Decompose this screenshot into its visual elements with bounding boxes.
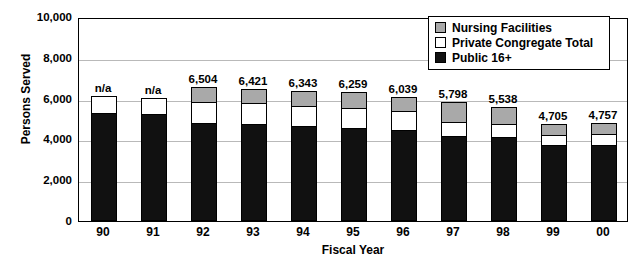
legend-item[interactable]: Public 16+ [435, 50, 604, 65]
bar-segment[interactable] [191, 102, 217, 124]
bar-value-label: n/a [123, 85, 183, 97]
bar-segment[interactable] [141, 98, 167, 115]
bar-segment[interactable] [441, 102, 467, 123]
x-tick-label: 94 [278, 226, 328, 238]
bar-segment[interactable] [141, 114, 167, 221]
bar-group[interactable] [341, 93, 367, 221]
bar-segment[interactable] [591, 145, 617, 221]
legend-swatch-icon [435, 52, 446, 63]
x-axis-title: Fiscal Year [78, 244, 628, 256]
clipped-chart-title [78, 0, 628, 1]
y-tick-label: 0 [12, 216, 72, 228]
bar-group[interactable] [591, 124, 617, 221]
legend-item[interactable]: Nursing Facilities [435, 20, 604, 35]
y-tick-label: 6,000 [12, 94, 72, 106]
bar-segment[interactable] [391, 130, 417, 221]
legend-swatch-icon [435, 22, 446, 33]
legend-label: Private Congregate Total [452, 37, 593, 49]
bar-segment[interactable] [341, 92, 367, 108]
x-tick-label: 91 [128, 226, 178, 238]
bar-segment[interactable] [291, 91, 317, 107]
bar-group[interactable] [191, 88, 217, 221]
x-tick-label: 93 [228, 226, 278, 238]
y-tick-label: 10,000 [12, 12, 72, 24]
bar-group[interactable] [141, 99, 167, 221]
x-tick-label: 96 [378, 226, 428, 238]
x-tick-label: 98 [478, 226, 528, 238]
x-tick-label: 90 [78, 226, 128, 238]
x-axis-tick-labels: 9091929394959697989900 [78, 226, 628, 244]
bar-value-label: 5,538 [473, 94, 533, 106]
bar-segment[interactable] [591, 134, 617, 146]
legend-swatch-icon [435, 37, 446, 48]
stacked-bar-chart: Persons Served 10,0008,0006,0004,0002,00… [0, 0, 636, 261]
legend-label: Nursing Facilities [452, 22, 552, 34]
bar-segment[interactable] [441, 122, 467, 137]
y-tick-label: 8,000 [12, 53, 72, 65]
x-tick-label: 92 [178, 226, 228, 238]
legend-item[interactable]: Private Congregate Total [435, 35, 604, 50]
y-axis-tick-labels: 10,0008,0006,0004,0002,0000 [12, 0, 72, 261]
bar-segment[interactable] [591, 123, 617, 135]
bar-segment[interactable] [541, 145, 567, 221]
bar-group[interactable] [491, 108, 517, 221]
bar-segment[interactable] [541, 124, 567, 136]
bar-segment[interactable] [341, 108, 367, 130]
y-tick-label: 2,000 [12, 175, 72, 187]
bar-segment[interactable] [541, 135, 567, 146]
y-tick-label: 4,000 [12, 134, 72, 146]
bar-segment[interactable] [191, 87, 217, 103]
x-tick-label: 00 [578, 226, 628, 238]
bar-segment[interactable] [241, 124, 267, 221]
bar-segment[interactable] [291, 106, 317, 128]
bar-group[interactable] [391, 98, 417, 221]
bar-segment[interactable] [291, 126, 317, 221]
chart-legend: Nursing FacilitiesPrivate Congregate Tot… [428, 16, 610, 70]
bar-segment[interactable] [241, 89, 267, 104]
x-tick-label: 99 [528, 226, 578, 238]
bar-segment[interactable] [491, 137, 517, 221]
bar-segment[interactable] [391, 111, 417, 131]
bar-group[interactable] [241, 90, 267, 221]
bar-segment[interactable] [341, 128, 367, 221]
legend-label: Public 16+ [452, 52, 512, 64]
bar-group[interactable] [441, 103, 467, 221]
bar-segment[interactable] [391, 97, 417, 112]
bar-segment[interactable] [441, 136, 467, 221]
bar-group[interactable] [91, 97, 117, 221]
x-tick-label: 95 [328, 226, 378, 238]
bar-segment[interactable] [491, 107, 517, 125]
bar-value-label: 4,757 [573, 110, 633, 122]
bar-segment[interactable] [241, 103, 267, 124]
bar-group[interactable] [541, 125, 567, 221]
bar-segment[interactable] [491, 124, 517, 138]
bar-segment[interactable] [191, 123, 217, 221]
x-tick-label: 97 [428, 226, 478, 238]
bar-segment[interactable] [91, 96, 117, 114]
bar-group[interactable] [291, 92, 317, 221]
bar-segment[interactable] [91, 113, 117, 221]
